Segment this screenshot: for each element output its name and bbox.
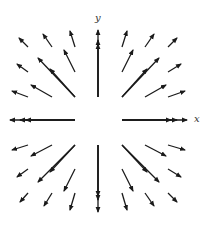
vector-arrow bbox=[44, 193, 52, 206]
vector-arrow bbox=[168, 145, 185, 150]
vector-arrow bbox=[70, 193, 75, 210]
vector-arrow bbox=[122, 50, 133, 72]
vector-arrow bbox=[122, 69, 147, 97]
vector-arrow bbox=[12, 91, 28, 97]
vector-arrow bbox=[12, 145, 28, 150]
vector-arrow bbox=[20, 193, 28, 202]
vector-arrow bbox=[64, 169, 75, 191]
vector-arrow bbox=[64, 50, 75, 72]
vector-arrow bbox=[43, 34, 52, 47]
vector-arrow bbox=[50, 69, 75, 97]
x-axis-label: x bbox=[194, 113, 200, 124]
vector-arrow bbox=[168, 193, 177, 202]
vector-arrow bbox=[168, 38, 177, 47]
vector-arrow bbox=[168, 64, 181, 72]
vector-arrow bbox=[168, 169, 181, 177]
vector-arrow bbox=[17, 169, 28, 177]
vector-arrow bbox=[31, 85, 52, 97]
vector-arrow bbox=[145, 34, 154, 47]
vector-arrow bbox=[122, 31, 127, 47]
vector-arrow bbox=[31, 145, 52, 156]
y-axis-label: y bbox=[95, 12, 101, 23]
vector-arrow bbox=[145, 145, 166, 156]
vector-arrow bbox=[50, 145, 75, 172]
vector-field-plot bbox=[0, 0, 209, 226]
vector-arrow bbox=[122, 193, 127, 210]
vector-arrow bbox=[145, 193, 154, 206]
vector-arrows bbox=[10, 30, 187, 212]
vector-arrow bbox=[168, 91, 185, 97]
vector-arrow bbox=[17, 64, 28, 72]
vector-arrow bbox=[122, 169, 133, 191]
vector-arrow bbox=[19, 38, 28, 47]
vector-arrow bbox=[70, 31, 75, 47]
vector-arrow bbox=[122, 145, 147, 172]
vector-arrow bbox=[145, 85, 166, 97]
